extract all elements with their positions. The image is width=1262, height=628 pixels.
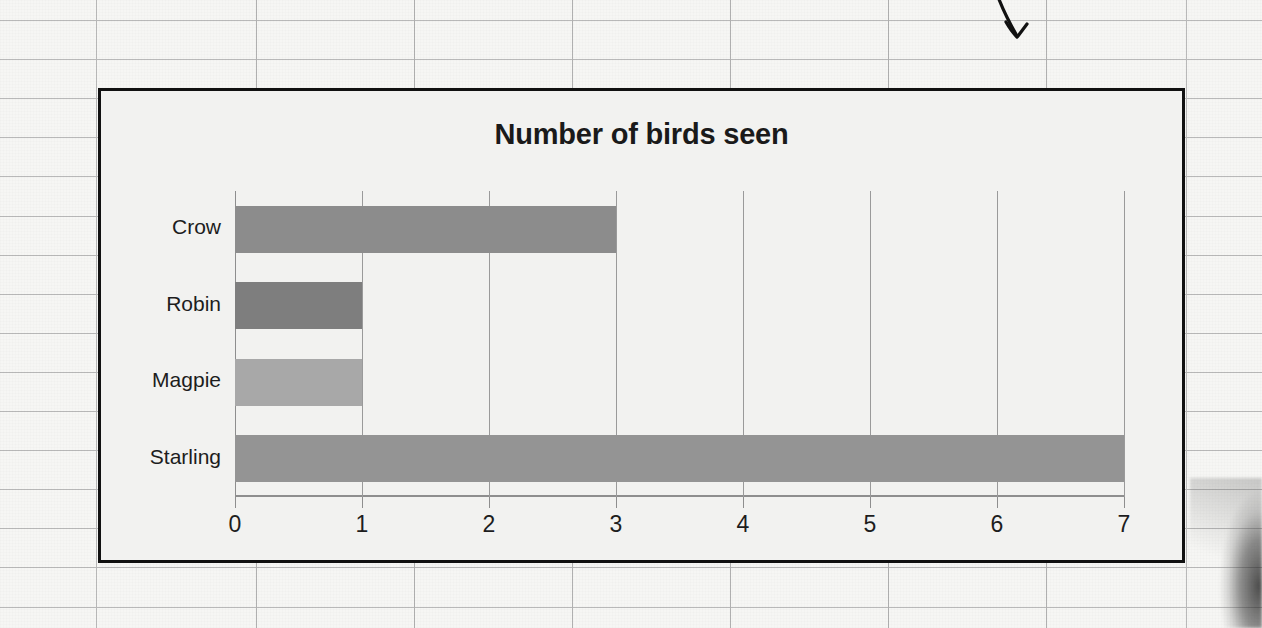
hand-drawn-down-arrow-icon xyxy=(975,0,1045,52)
bar-crow xyxy=(235,206,616,253)
grid-line-bottom xyxy=(730,563,731,628)
bar-chart-card: Number of birds seen 01234567 CrowRobinM… xyxy=(98,88,1185,563)
grid-line-top xyxy=(256,0,257,88)
grid-line-top xyxy=(730,0,731,88)
bar-starling xyxy=(235,435,1124,482)
grid-line-bottom xyxy=(414,563,415,628)
x-tick-label: 4 xyxy=(723,511,763,538)
notebook-page: Number of birds seen 01234567 CrowRobinM… xyxy=(0,0,1262,628)
plot-area: 01234567 CrowRobinMagpieStarling xyxy=(235,191,1124,497)
gridline xyxy=(1124,191,1125,497)
grid-line-bottom xyxy=(256,563,257,628)
rule-line xyxy=(0,20,1262,21)
grid-line-bottom xyxy=(1046,563,1047,628)
rule-line xyxy=(0,607,1262,608)
rule-line xyxy=(0,59,1262,60)
x-tick-label: 5 xyxy=(850,511,890,538)
x-tick xyxy=(870,497,871,508)
x-tick-label: 3 xyxy=(596,511,636,538)
x-tick-label: 6 xyxy=(977,511,1017,538)
x-tick xyxy=(362,497,363,508)
x-tick xyxy=(1124,497,1125,508)
x-tick xyxy=(997,497,998,508)
x-tick xyxy=(489,497,490,508)
x-tick-label: 2 xyxy=(469,511,509,538)
grid-line-bottom xyxy=(572,563,573,628)
category-label-robin: Robin xyxy=(166,292,221,316)
bar-band xyxy=(235,421,1124,498)
x-tick xyxy=(235,497,236,508)
chart-title: Number of birds seen xyxy=(101,118,1182,151)
grid-line-top xyxy=(1046,0,1047,88)
category-label-starling: Starling xyxy=(150,445,221,469)
bar-band xyxy=(235,191,1124,268)
x-tick xyxy=(743,497,744,508)
grid-line-top xyxy=(414,0,415,88)
x-tick-label: 1 xyxy=(342,511,382,538)
grid-line-top xyxy=(888,0,889,88)
margin-line xyxy=(1186,0,1187,628)
x-tick-label: 0 xyxy=(215,511,255,538)
category-label-magpie: Magpie xyxy=(152,368,221,392)
x-tick xyxy=(616,497,617,508)
x-tick-label: 7 xyxy=(1104,511,1144,538)
bar-band xyxy=(235,268,1124,345)
rule-line xyxy=(0,567,1262,568)
grid-line-bottom xyxy=(888,563,889,628)
margin-line xyxy=(96,0,97,628)
bar-band xyxy=(235,344,1124,421)
category-label-crow: Crow xyxy=(172,215,221,239)
grid-line-top xyxy=(572,0,573,88)
bar-magpie xyxy=(235,359,362,406)
bar-robin xyxy=(235,282,362,329)
